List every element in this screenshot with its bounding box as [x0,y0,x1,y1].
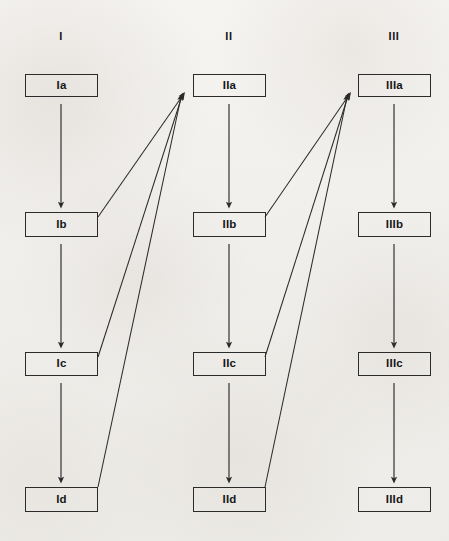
node-box-iid[interactable]: IId [193,487,266,512]
edge-iic-to-iiia [265,96,348,357]
node-box-ic[interactable]: Ic [25,352,98,376]
node-box-id[interactable]: Id [25,487,98,512]
column-header-i: I [59,30,63,42]
node-box-ib[interactable]: Ib [25,212,98,237]
edge-ic-to-iia [98,96,182,357]
edges-group [61,95,394,487]
edge-iid-to-iiia [265,97,347,487]
diagram-canvas: IIIIII IaIbIcIdIIaIIbIIcIIdIIIaIIIbIIIcI… [0,0,449,541]
edge-ib-to-iia [98,95,183,217]
node-box-iiic[interactable]: IIIc [358,352,431,376]
node-box-iic[interactable]: IIc [193,352,266,376]
edge-iib-to-iiia [265,95,349,217]
node-box-iiia[interactable]: IIIa [358,74,431,97]
node-box-iib[interactable]: IIb [193,212,266,237]
column-header-iii: III [389,30,400,42]
node-box-iia[interactable]: IIa [193,74,266,97]
node-box-ia[interactable]: Ia [25,74,98,97]
node-box-iiid[interactable]: IIId [358,487,431,512]
node-box-iiib[interactable]: IIIb [358,212,431,237]
edge-id-to-iia [98,97,181,487]
column-header-ii: II [225,30,232,42]
